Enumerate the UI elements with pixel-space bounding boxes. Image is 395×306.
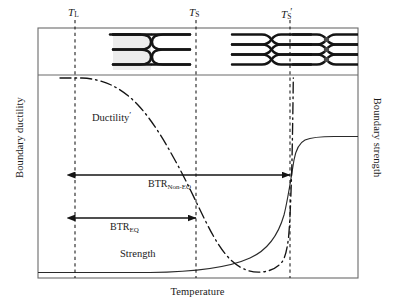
- y-axis-right-label: Boundary strength: [372, 63, 383, 213]
- strength-curve-label: Strength: [120, 248, 156, 259]
- btr-non-eq-label: BTRNon-EQ: [148, 178, 191, 191]
- ductility-curve-label: Ductility′: [92, 110, 131, 123]
- x-axis-label: Temperature: [0, 286, 395, 297]
- y-axis-left-label: Boundary ductility: [14, 63, 25, 213]
- diagram-canvas: [0, 0, 395, 306]
- btr-weldability-diagram: TL TS TS′ Ductility′ Strength BTRNon-EQ …: [0, 0, 395, 306]
- tick-label-TS: TS: [189, 6, 199, 19]
- btr-eq-label: BTREQ: [110, 221, 139, 234]
- tick-label-TL: TL: [68, 6, 79, 19]
- tick-label-TS-prime: TS′: [281, 6, 292, 21]
